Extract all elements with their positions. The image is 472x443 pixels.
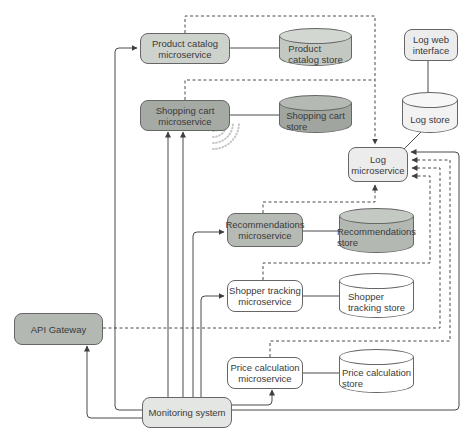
node-shopping-cart-microservice: Shopping cart microservice	[140, 100, 230, 131]
node-label: Shopper tracking microservice	[229, 285, 301, 307]
node-label: Price calculation store	[339, 362, 414, 393]
node-label: Recommendations store	[339, 221, 414, 253]
node-label: Shopping cart microservice	[156, 105, 215, 127]
node-label: Log microservice	[351, 154, 404, 176]
node-log-store: Log store	[402, 92, 458, 133]
node-price-calculation-store: Price calculation store	[339, 349, 414, 393]
node-monitoring-system: Monitoring system	[142, 397, 232, 428]
node-api-gateway: API Gateway	[14, 313, 103, 345]
node-recommendations-microservice: Recommendations microservice	[227, 213, 303, 247]
node-shopper-tracking-store: Shopper tracking store	[339, 273, 414, 318]
node-product-catalog-microservice: Product catalog microservice	[140, 33, 230, 64]
connector-monitoring-to-shopper-tracking	[201, 296, 224, 397]
node-shopping-cart-store: Shopping cart store	[279, 95, 352, 133]
connector-monitoring-to-product-catalog	[115, 48, 142, 410]
diagram-canvas: Product catalog microservice Shopping ca…	[0, 0, 472, 443]
node-shopper-tracking-microservice: Shopper tracking microservice	[227, 280, 303, 312]
node-label: Recommendations microservice	[225, 219, 304, 241]
node-label: Shopping cart store	[279, 108, 352, 133]
node-recommendations-store: Recommendations store	[339, 208, 414, 253]
node-product-catalog-store: Product catalog store	[279, 28, 352, 66]
connector-monitoring-to-price-calculation	[232, 390, 272, 405]
node-label: Product catalog microservice	[152, 38, 218, 60]
node-log-microservice: Log microservice	[348, 147, 408, 182]
node-label: Shopper tracking store	[339, 286, 414, 318]
node-label: Monitoring system	[148, 407, 225, 418]
connector-price-calculation-to-log	[270, 160, 450, 357]
node-label: Log store	[402, 105, 458, 133]
node-label: Price calculation microservice	[230, 362, 299, 384]
node-label: Log web interface	[413, 34, 449, 56]
link-log-store-log-microservice	[404, 132, 421, 149]
node-log-web-interface: Log web interface	[404, 29, 458, 61]
connector-monitoring-to-recommendations	[193, 232, 224, 397]
node-label: Product catalog store	[279, 41, 352, 66]
node-price-calculation-microservice: Price calculation microservice	[227, 357, 303, 389]
node-label: API Gateway	[31, 324, 86, 335]
